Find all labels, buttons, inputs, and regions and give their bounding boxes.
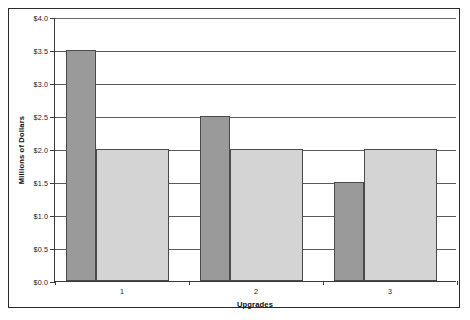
gridline: [55, 117, 456, 118]
x-axis-category-label: 1: [120, 287, 124, 296]
bar-series-2-category-3: [364, 149, 437, 281]
y-axis-tick-label: $2.0: [34, 146, 48, 155]
x-axis-category-label: 2: [254, 287, 258, 296]
gridline: [55, 84, 456, 85]
plot-area: $0.0$0.5$1.0$1.5$2.0$2.5$3.0$3.5$4.0 123: [54, 18, 456, 282]
bar-series-1-category-1: [66, 50, 96, 281]
y-axis-tick: [50, 117, 55, 118]
y-axis-title: Millions of Dollars: [15, 18, 27, 282]
y-axis-tick-label: $0.5: [34, 245, 48, 254]
y-axis-tick: [50, 183, 55, 184]
y-axis-tick-label: $2.5: [34, 113, 48, 122]
y-axis-tick: [50, 249, 55, 250]
y-axis-tick: [50, 18, 55, 19]
y-axis-tick-label: $0.0: [34, 278, 48, 287]
bar-series-2-category-2: [230, 149, 303, 281]
y-axis-tick-label: $1.0: [34, 212, 48, 221]
x-axis-tick: [55, 281, 56, 285]
chart-frame: Millions of Dollars $0.0$0.5$1.0$1.5$2.0…: [8, 8, 460, 308]
y-axis-tick-label: $3.0: [34, 80, 48, 89]
y-axis-tick-label: $1.5: [34, 179, 48, 188]
y-axis-tick: [50, 84, 55, 85]
y-axis-tick-label: $4.0: [34, 14, 48, 23]
bar-series-2-category-1: [96, 149, 169, 281]
bar-series-1-category-3: [334, 182, 364, 281]
y-axis-tick: [50, 216, 55, 217]
x-axis-tick: [189, 281, 190, 285]
y-axis-tick: [50, 51, 55, 52]
x-axis-title: Upgrades: [54, 300, 456, 309]
x-axis-tick: [323, 281, 324, 285]
gridline: [55, 18, 456, 19]
bar-series-1-category-2: [200, 116, 230, 281]
y-axis-tick-label: $3.5: [34, 47, 48, 56]
x-axis-category-label: 3: [388, 287, 392, 296]
x-axis-tick: [457, 281, 458, 285]
gridline: [55, 51, 456, 52]
y-axis-tick: [50, 150, 55, 151]
